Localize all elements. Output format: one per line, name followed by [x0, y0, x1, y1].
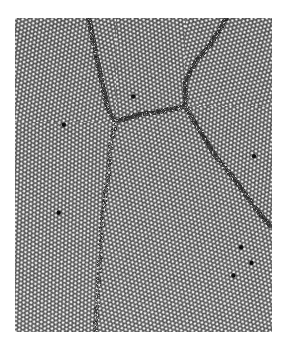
- defect-point: [252, 154, 256, 158]
- defect-point: [56, 210, 60, 214]
- boundary-left-lower: [95, 122, 116, 332]
- defect-point: [231, 273, 235, 277]
- defect-point: [239, 245, 243, 249]
- boundary-horizontal: [115, 106, 184, 122]
- defect-point: [249, 261, 253, 265]
- boundary-right-lower: [185, 106, 270, 225]
- defect-point: [62, 123, 66, 127]
- boundary-right-upper: [185, 18, 226, 106]
- micrograph: [15, 18, 272, 332]
- defect-point: [131, 94, 135, 98]
- boundary-overlay: [15, 18, 272, 332]
- boundary-left-upper: [88, 18, 115, 122]
